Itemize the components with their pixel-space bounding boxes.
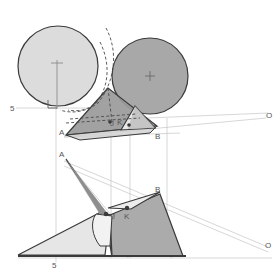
- plan-view-group: [18, 159, 186, 256]
- label-plan-o: O: [265, 241, 271, 250]
- label-elevation-a: A: [59, 128, 65, 137]
- label-plan-a: A: [59, 150, 65, 159]
- plan-fan-ray-3: [66, 160, 100, 214]
- label-plan-baseline-5: 5: [52, 261, 57, 270]
- point-marker-k-elevation: [127, 123, 131, 127]
- label-elevation-b: B: [155, 132, 160, 141]
- elevation-view-group: [18, 26, 188, 140]
- light-circle: [18, 26, 98, 106]
- label-plan-k: K: [124, 212, 130, 221]
- plan-right-lobe: [110, 194, 183, 256]
- technical-drawing-canvas: 5 A B J K O A B J K O 5: [0, 0, 280, 276]
- label-elevation-j: J: [110, 119, 114, 128]
- geometry-figure-root: 5 A B J K O A B J K O 5: [0, 0, 280, 276]
- label-plan-b: B: [155, 185, 160, 194]
- label-elevation-height-5: 5: [10, 104, 15, 113]
- label-plan-j: J: [111, 212, 115, 221]
- point-marker-j-plan: [104, 212, 108, 216]
- point-marker-k-plan: [125, 206, 129, 210]
- label-elevation-o: O: [266, 111, 272, 120]
- label-elevation-k: K: [117, 118, 123, 127]
